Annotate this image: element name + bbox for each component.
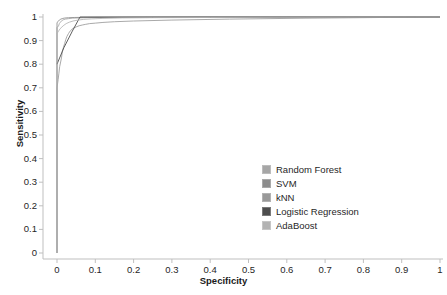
legend-label: kNN <box>276 192 294 203</box>
y-tick-marks <box>39 17 43 253</box>
series-layer <box>57 17 440 253</box>
y-tick-label: 0.9 <box>13 35 37 46</box>
series-line-random-forest <box>57 17 440 253</box>
legend-swatch-icon <box>262 179 271 188</box>
series-line-knn <box>57 17 440 253</box>
legend-swatch-icon <box>262 193 271 202</box>
legend-label: AdaBoost <box>276 220 317 231</box>
x-tick-label: 0.6 <box>275 264 299 275</box>
x-tick-label: 0 <box>45 264 69 275</box>
y-axis-title: Sensitivity <box>14 89 25 159</box>
legend-swatch-icon <box>262 207 271 216</box>
series-line-logistic-regression <box>57 17 440 64</box>
chart-legend: Random ForestSVMkNNLogistic RegressionAd… <box>262 163 359 231</box>
legend-item[interactable]: kNN <box>262 191 359 203</box>
x-axis-title: Specificity <box>0 275 447 286</box>
y-tick-label: 0.2 <box>13 200 37 211</box>
x-tick-label: 0.5 <box>237 264 261 275</box>
x-tick-label: 0.9 <box>390 264 414 275</box>
plot-area <box>0 0 447 295</box>
axis-lines <box>43 14 443 259</box>
legend-label: Random Forest <box>276 164 341 175</box>
legend-label: Logistic Regression <box>276 206 359 217</box>
y-tick-label: 0.8 <box>13 58 37 69</box>
legend-item[interactable]: Logistic Regression <box>262 205 359 217</box>
legend-item[interactable]: AdaBoost <box>262 219 359 231</box>
y-tick-label: 0 <box>13 247 37 258</box>
roc-curve-chart: 00.10.20.30.40.50.60.70.80.91 00.10.20.3… <box>0 0 447 295</box>
x-tick-label: 0.4 <box>198 264 222 275</box>
x-tick-label: 0.3 <box>160 264 184 275</box>
legend-swatch-icon <box>262 221 271 230</box>
legend-item[interactable]: SVM <box>262 177 359 189</box>
legend-label: SVM <box>276 178 297 189</box>
legend-swatch-icon <box>262 165 271 174</box>
y-tick-label: 1 <box>13 11 37 22</box>
y-tick-label: 0.1 <box>13 223 37 234</box>
x-tick-label: 0.1 <box>83 264 107 275</box>
x-tick-label: 0.2 <box>122 264 146 275</box>
series-line-svm <box>57 17 440 253</box>
y-tick-label: 0.3 <box>13 176 37 187</box>
x-tick-marks <box>57 259 440 263</box>
series-line-adaboost <box>57 17 440 253</box>
legend-item[interactable]: Random Forest <box>262 163 359 175</box>
x-tick-label: 0.7 <box>313 264 337 275</box>
x-tick-label: 1 <box>428 264 447 275</box>
x-tick-label: 0.8 <box>351 264 375 275</box>
